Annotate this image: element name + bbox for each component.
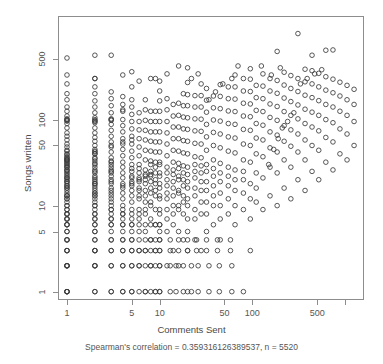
data-point	[226, 165, 231, 170]
data-point	[109, 248, 114, 253]
data-point	[275, 78, 280, 83]
data-point	[226, 85, 231, 90]
data-point	[185, 152, 190, 157]
data-point	[65, 212, 70, 217]
data-point	[137, 145, 142, 150]
data-point	[324, 102, 329, 107]
data-point	[345, 83, 350, 88]
data-point	[129, 248, 134, 253]
data-point	[93, 222, 98, 227]
data-point	[129, 105, 134, 110]
data-point	[168, 263, 173, 268]
data-point	[204, 179, 209, 184]
data-point	[143, 97, 148, 102]
x-axis-tick-label: 5	[129, 308, 134, 318]
data-point	[93, 229, 98, 234]
data-point	[199, 82, 204, 87]
data-point	[204, 169, 209, 174]
y-axis-tick-label: 500	[37, 51, 47, 67]
data-point	[109, 110, 114, 115]
x-axis-tick-label: 1	[64, 308, 69, 318]
data-point	[241, 101, 246, 106]
data-point	[199, 200, 204, 205]
data-point	[204, 110, 209, 115]
data-point	[165, 217, 170, 222]
data-point	[296, 31, 301, 36]
data-point	[176, 149, 181, 154]
data-point	[143, 222, 148, 227]
data-point	[165, 72, 170, 77]
data-point	[165, 107, 170, 112]
data-point	[157, 174, 162, 179]
data-point	[93, 131, 98, 136]
data-point	[129, 200, 134, 205]
data-point	[211, 222, 216, 227]
data-point	[120, 222, 125, 227]
data-point	[218, 171, 223, 176]
data-point	[199, 117, 204, 122]
data-point	[233, 188, 238, 193]
data-point	[226, 197, 231, 202]
data-point	[211, 194, 216, 199]
data-point	[129, 149, 134, 154]
data-point	[137, 217, 142, 222]
data-point	[211, 166, 216, 171]
data-point	[215, 248, 220, 253]
data-point	[226, 135, 231, 140]
data-point	[171, 125, 176, 130]
data-point	[289, 99, 294, 104]
data-point	[345, 113, 350, 118]
data-point	[176, 161, 181, 166]
data-point	[226, 174, 231, 179]
data-point	[218, 94, 223, 99]
data-point	[316, 113, 321, 118]
data-point	[148, 186, 153, 191]
data-point	[241, 114, 246, 119]
data-point	[148, 289, 153, 294]
data-point	[211, 106, 216, 111]
x-axis-tick	[345, 300, 346, 305]
x-axis-tick-label: 50	[219, 308, 229, 318]
data-point	[109, 238, 114, 243]
data-point	[261, 176, 266, 181]
data-point	[185, 197, 190, 202]
data-point	[109, 128, 114, 133]
data-point	[226, 121, 231, 126]
y-axis-tick	[53, 232, 58, 233]
data-point	[217, 289, 222, 294]
data-point	[176, 238, 181, 243]
data-point	[241, 207, 246, 212]
data-point	[303, 138, 308, 143]
data-point	[261, 84, 266, 89]
data-point	[129, 222, 134, 227]
data-point	[171, 222, 176, 227]
data-point	[215, 238, 220, 243]
data-point	[185, 229, 190, 234]
data-point	[213, 90, 218, 95]
data-point	[171, 136, 176, 141]
data-point	[254, 83, 259, 88]
data-point	[93, 53, 98, 58]
data-point	[230, 263, 235, 268]
data-point	[338, 80, 343, 85]
data-point	[199, 212, 204, 217]
y-axis-tick	[53, 145, 58, 146]
data-point	[185, 80, 190, 85]
data-point	[193, 105, 198, 110]
data-point	[193, 162, 198, 167]
data-point	[153, 76, 158, 81]
data-point	[338, 127, 343, 132]
data-point	[289, 144, 294, 149]
data-point	[185, 203, 190, 208]
data-point	[193, 129, 198, 134]
data-point	[338, 152, 343, 157]
data-point	[157, 212, 162, 217]
data-point	[181, 212, 186, 217]
data-point	[296, 132, 301, 137]
data-point	[199, 93, 204, 98]
data-point	[218, 191, 223, 196]
data-point	[303, 67, 308, 72]
data-point	[109, 212, 114, 217]
data-point	[282, 83, 287, 88]
data-point	[137, 128, 142, 133]
